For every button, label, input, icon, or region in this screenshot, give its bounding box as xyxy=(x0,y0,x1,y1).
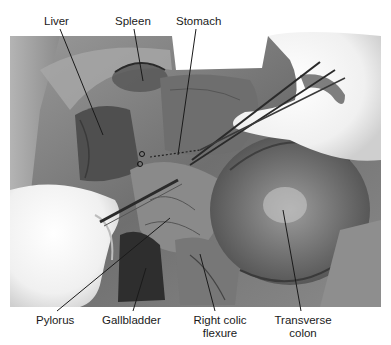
anatomy-figure: Liver Spleen Stomach Pylorus Gallbladder… xyxy=(0,0,391,345)
leader-line-transverse-colon xyxy=(283,210,301,311)
label-right-colic-flexure: Right colic flexure xyxy=(190,314,250,340)
label-spleen: Spleen xyxy=(115,15,151,28)
label-gallbladder: Gallbladder xyxy=(102,314,161,327)
leader-lines xyxy=(0,0,391,345)
label-transverse-colon-line1: Transverse xyxy=(272,314,334,327)
leader-line-liver xyxy=(60,29,103,135)
label-stomach: Stomach xyxy=(176,15,221,28)
label-liver: Liver xyxy=(44,15,69,28)
leader-line-pylorus xyxy=(57,218,170,311)
label-transverse-colon: Transverse colon xyxy=(272,314,334,340)
label-right-colic-flexure-line2: flexure xyxy=(190,327,250,340)
leader-line-stomach xyxy=(178,29,196,155)
leader-line-spleen xyxy=(134,29,143,81)
leader-line-gallbladder xyxy=(133,268,146,311)
label-right-colic-flexure-line1: Right colic xyxy=(190,314,250,327)
label-pylorus: Pylorus xyxy=(36,314,74,327)
label-transverse-colon-line2: colon xyxy=(272,327,334,340)
leader-line-right-colic-flexure xyxy=(200,254,215,311)
